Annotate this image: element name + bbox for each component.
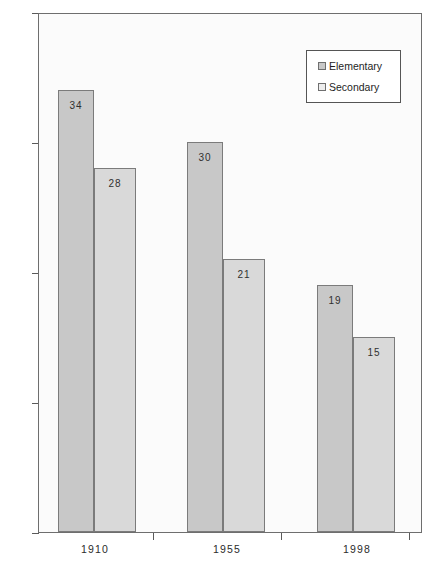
x-tick-label-1955: 1955 [182, 543, 272, 555]
x-tick-mark-1 [153, 533, 154, 540]
bar-elementary-1998[interactable]: 19 [317, 285, 353, 532]
x-tick-mark-2 [281, 533, 282, 540]
legend-item-elementary[interactable]: Elementary [318, 60, 382, 72]
x-tick-label-1910: 1910 [50, 543, 140, 555]
bar-label-elementary-1910: 34 [59, 100, 93, 111]
bar-label-secondary-1955: 21 [224, 269, 264, 280]
legend-item-secondary[interactable]: Secondary [318, 81, 379, 93]
bar-label-secondary-1910: 28 [95, 178, 135, 189]
bar-secondary-1955[interactable]: 21 [223, 259, 265, 532]
x-tick-mark-3 [409, 533, 410, 540]
bar-secondary-1998[interactable]: 15 [353, 337, 395, 532]
bar-secondary-1910[interactable]: 28 [94, 168, 136, 532]
chart-title-clipped [0, 0, 435, 9]
legend-label-elementary: Elementary [329, 60, 382, 72]
bar-elementary-1910[interactable]: 34 [58, 90, 94, 532]
chart-legend: Elementary Secondary [306, 50, 401, 103]
bar-elementary-1955[interactable]: 30 [187, 142, 223, 532]
bar-label-secondary-1998: 15 [354, 347, 394, 358]
bar-label-elementary-1955: 30 [188, 152, 222, 163]
legend-swatch-icon-secondary [318, 83, 326, 91]
y-tick-mark-0 [32, 533, 39, 534]
bar-label-elementary-1998: 19 [318, 295, 352, 306]
legend-swatch-icon-elementary [318, 62, 326, 70]
bar-chart: 40 30 20 10 0 34 28 30 21 [0, 0, 435, 563]
x-tick-label-1998: 1998 [312, 543, 402, 555]
legend-label-secondary: Secondary [329, 81, 379, 93]
